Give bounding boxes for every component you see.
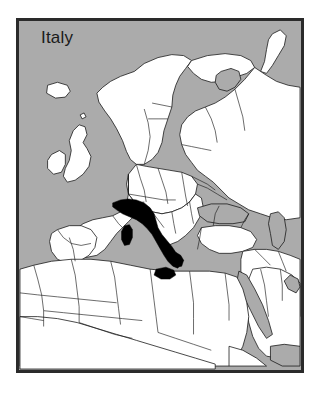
map-canvas: [18, 20, 302, 371]
figure-container: Italy: [0, 0, 319, 394]
map-frame: [16, 18, 304, 373]
